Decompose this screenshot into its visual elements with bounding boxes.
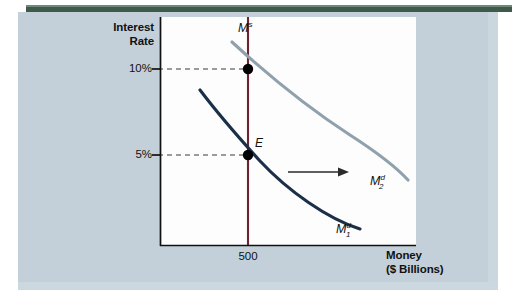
- y-axis-title: Interest Rate: [56, 21, 154, 48]
- x-tick-label-500: 500: [222, 250, 274, 262]
- equilibrium-label: E: [255, 136, 263, 150]
- money-demand-2-label: Md2: [370, 173, 383, 191]
- money-supply-label: Ms: [238, 20, 252, 35]
- money-demand-1-label-sub: 1: [346, 230, 350, 239]
- money-demand-1-label-sup: d: [346, 221, 350, 230]
- money-demand-1-label: Md1: [336, 221, 350, 239]
- x-axis-title-line2: ($ Billions): [386, 263, 498, 277]
- money-supply-label-sup: s: [248, 20, 252, 29]
- figure-page: Interest Rate 10% 5% 500 Money ($ Billio…: [0, 0, 512, 306]
- money-demand-2-label-sup: d: [380, 173, 384, 182]
- y-tick-label-10: 10%: [96, 62, 152, 74]
- x-axis-title: Money ($ Billions): [386, 249, 498, 276]
- money-supply-label-base: M: [238, 21, 248, 35]
- y-axis-title-line2: Rate: [56, 35, 154, 49]
- y-axis-title-line1: Interest: [56, 21, 154, 35]
- money-demand-1-label-base: M: [336, 222, 346, 236]
- y-tick-label-5: 5%: [96, 148, 152, 160]
- money-demand-2-label-sub: 2: [379, 182, 383, 191]
- x-axis-title-line1: Money: [386, 249, 498, 263]
